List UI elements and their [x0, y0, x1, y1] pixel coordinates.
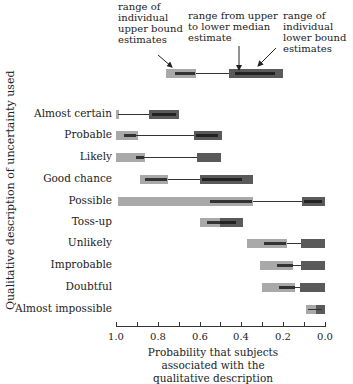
category-label: Possible — [0, 194, 112, 206]
category-label: Almost certain — [0, 107, 112, 119]
category-label: Toss-up — [0, 215, 112, 227]
category-label: Good chance — [0, 172, 112, 184]
category-label: Doubtful — [0, 280, 112, 292]
x-axis — [116, 326, 326, 327]
x-tick-label: 0.6 — [185, 331, 215, 342]
x-tick-label: 0.2 — [268, 331, 298, 342]
category-label: Almost impossible — [0, 302, 112, 314]
x-axis-title: Probability that subjects associated wit… — [138, 346, 288, 384]
legend-arrows — [0, 0, 353, 100]
category-label: Improbable — [0, 258, 112, 270]
x-tick-label: 0.4 — [226, 331, 256, 342]
x-tick-label: 0.8 — [143, 331, 173, 342]
category-label: Likely — [0, 150, 112, 162]
category-label: Unlikely — [0, 236, 112, 248]
category-label: Probable — [0, 128, 112, 140]
x-tick-label: 1.0 — [101, 331, 131, 342]
x-tick-label: 0.0 — [310, 331, 340, 342]
